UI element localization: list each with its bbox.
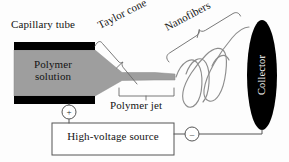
polymer-solution-label: Polymer solution <box>22 59 84 82</box>
nanofiber-coils <box>176 27 249 107</box>
positive-terminal-sign: + <box>65 108 73 117</box>
electrospinning-diagram: Capillary tube Taylor cone Nanofibers Po… <box>0 0 289 162</box>
high-voltage-source-label: High-voltage source <box>52 131 174 143</box>
negative-terminal-sign: – <box>188 130 196 139</box>
capillary-tube-top-bar <box>14 42 95 50</box>
capillary-tube-bottom-bar <box>14 96 95 104</box>
polymer-solution-label-line2: solution <box>22 71 84 83</box>
capillary-tube-label: Capillary tube <box>11 19 75 31</box>
polymer-jet-label: Polymer jet <box>110 100 162 112</box>
collector-label: Collector <box>256 55 267 95</box>
wire-negative-to-collector <box>199 130 262 134</box>
polymer-solution-label-line1: Polymer <box>22 59 84 71</box>
